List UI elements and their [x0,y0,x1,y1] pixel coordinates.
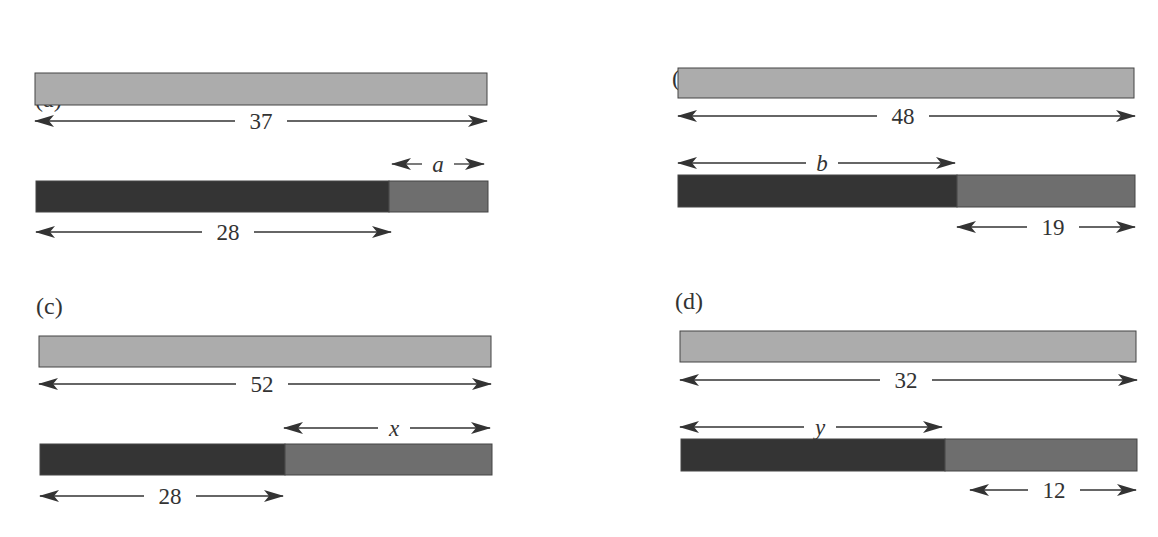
whole-bar [35,73,487,105]
dimension-value-label: 32 [895,368,918,393]
dimension-value-label: 28 [217,220,240,245]
dimension-value-label: 52 [251,372,274,397]
first-part-dimension: y [680,415,942,440]
whole-dimension: 37 [35,109,487,134]
first-part-bar [40,444,285,475]
second-part-dimension: a [392,152,484,177]
first-part-dimension: 28 [36,220,391,245]
dimension-value-label: 19 [1042,215,1065,240]
whole-dimension: 48 [678,104,1135,129]
first-part-dimension: 28 [40,484,283,509]
dimension-value-label: 28 [159,484,182,509]
second-part-bar [285,444,492,475]
panel-label: (c) [36,293,63,319]
unknown-variable-label: y [813,415,826,440]
second-part-dimension: 12 [970,478,1136,503]
first-part-dimension: b [678,151,955,176]
dimension-value-label: 12 [1043,478,1066,503]
panel-d: (d)32y12 [675,288,1137,503]
unknown-variable-label: b [816,151,828,176]
whole-bar [680,331,1136,362]
second-part-bar [389,181,488,212]
first-part-bar [36,181,389,212]
unknown-variable-label: a [432,152,444,177]
first-part-bar [678,175,957,207]
whole-dimension: 32 [680,368,1137,393]
whole-dimension: 52 [39,372,491,397]
first-part-bar [681,439,945,471]
dimension-value-label: 37 [250,109,273,134]
panel-label: (d) [675,288,703,314]
panel-b: (b)48b19 [672,65,1135,240]
panel-c: (c)5228x [36,293,492,509]
dimension-value-label: 48 [892,104,915,129]
unknown-variable-label: x [388,416,400,441]
whole-bar [678,68,1134,98]
second-part-bar [945,439,1137,471]
second-part-dimension: x [284,416,490,441]
bar-model-diagram: (a)3728a(b)48b19(c)5228x(d)32y12 [0,0,1158,537]
second-part-bar [957,175,1135,207]
panel-a: (a)3728a [35,73,488,245]
second-part-dimension: 19 [957,215,1135,240]
whole-bar [39,336,491,367]
